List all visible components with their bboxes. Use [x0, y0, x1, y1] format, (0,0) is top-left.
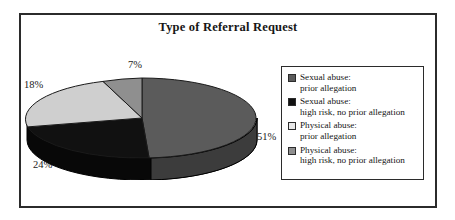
legend-label: Physical abuse: prior allegation [300, 120, 357, 141]
pie-label-24: 24% [33, 159, 52, 170]
pie-label-18: 18% [24, 79, 43, 90]
legend-item-physical-abuse-prior: Physical abuse: prior allegation [288, 120, 419, 141]
legend-swatch-icon [288, 74, 296, 82]
legend-item-sexual-abuse-prior: Sexual abuse: prior allegation [288, 72, 419, 93]
pie-chart [22, 55, 272, 180]
legend-label-line1: Physical abuse: [300, 145, 357, 155]
legend-label: Sexual abuse: prior allegation [300, 72, 356, 93]
pie-label-7: 7% [128, 59, 142, 70]
legend-label: Sexual abuse: high risk, no prior allega… [300, 96, 405, 117]
legend-label: Physical abuse: high risk, no prior alle… [300, 145, 405, 166]
legend-item-physical-abuse-high-risk: Physical abuse: high risk, no prior alle… [288, 145, 419, 166]
pie-label-51: 51% [257, 131, 276, 142]
legend-label-line2: prior allegation [300, 131, 357, 142]
chart-legend: Sexual abuse: prior allegation Sexual ab… [281, 66, 424, 180]
chart-figure: Type of Referral Request 7% 18% 24% 51% [0, 0, 455, 220]
legend-swatch-icon [288, 122, 296, 130]
legend-label-line2: prior allegation [300, 83, 356, 94]
pie-svg [22, 55, 272, 180]
legend-swatch-icon [288, 147, 296, 155]
legend-label-line2: high risk, no prior allegation [300, 155, 405, 166]
legend-label-line1: Physical abuse: [300, 120, 357, 130]
legend-item-sexual-abuse-high-risk: Sexual abuse: high risk, no prior allega… [288, 96, 419, 117]
legend-label-line1: Sexual abuse: [300, 96, 351, 106]
legend-label-line2: high risk, no prior allegation [300, 107, 405, 118]
legend-swatch-icon [288, 98, 296, 106]
chart-title: Type of Referral Request [19, 20, 437, 35]
legend-label-line1: Sexual abuse: [300, 72, 351, 82]
